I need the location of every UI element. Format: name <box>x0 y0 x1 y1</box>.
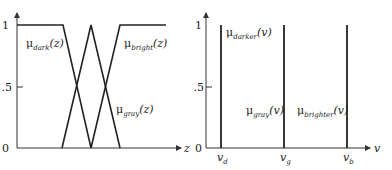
mu-darker-label: μdarker(v) <box>226 26 272 41</box>
figure: 1 .5 0 z μdark(z) μbright(z) μgray(z) 1 … <box>0 0 392 170</box>
mu-gray-line <box>62 25 120 148</box>
ytick-0: 0 <box>2 142 9 155</box>
mu-brighter-label: μbrighter(v) <box>297 104 348 119</box>
input-membership-chart: 1 .5 0 z μdark(z) μbright(z) μgray(z) <box>2 13 191 155</box>
xtick-vg: vg <box>280 151 291 166</box>
mu-dark-label: μdark(z) <box>26 37 64 52</box>
mu-gray-label: μgray(v) <box>246 104 284 119</box>
ytick-1: 1 <box>2 19 9 32</box>
mu-gray-label: μgray(z) <box>116 103 154 118</box>
ytick-0: 0 <box>195 142 202 155</box>
ytick-1: 1 <box>195 19 202 32</box>
mu-bright-label: μbright(z) <box>124 37 167 52</box>
xtick-vd: vd <box>217 151 228 166</box>
ytick-half: .5 <box>194 81 205 94</box>
x-axis-label: z <box>183 142 190 155</box>
x-axis-label: v <box>374 142 381 155</box>
xtick-vb: vb <box>343 151 354 166</box>
output-membership-chart: 1 .5 0 v μdarker(v) μgray(v) μbrighter(v… <box>194 13 382 166</box>
ytick-half: .5 <box>2 81 13 94</box>
